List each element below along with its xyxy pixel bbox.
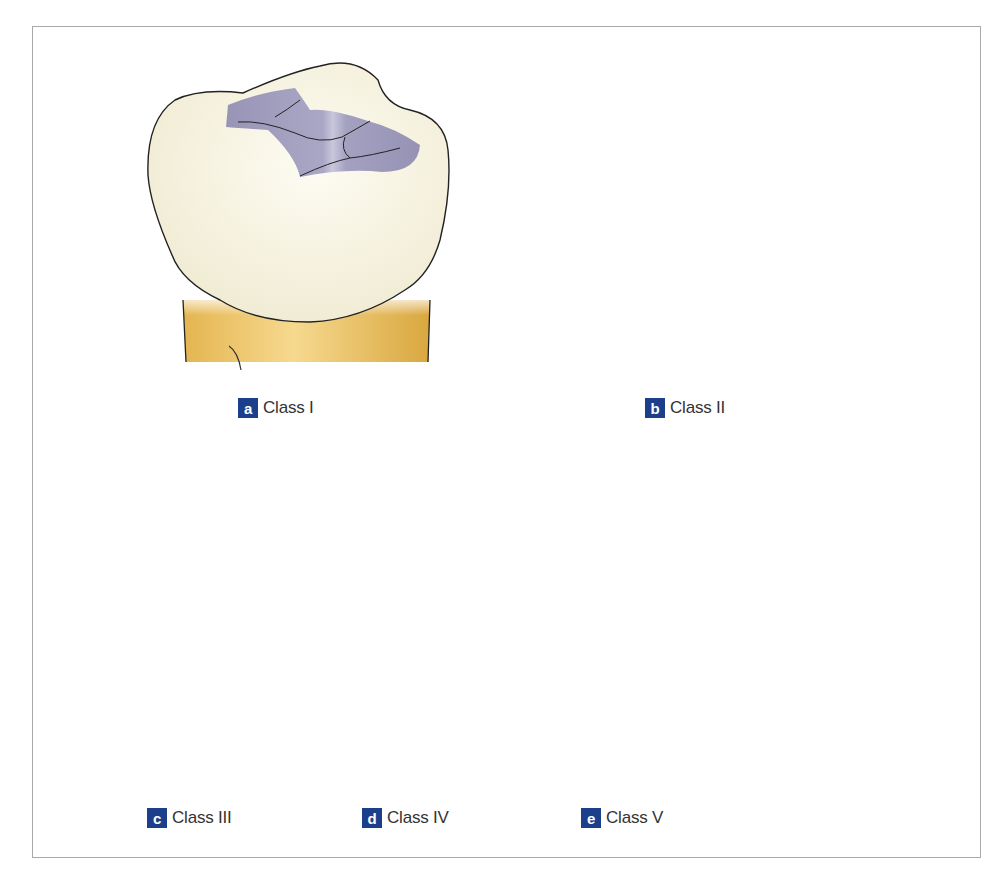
caption-class-v: e Class V <box>581 808 663 828</box>
panel-letter-badge: a <box>238 398 258 418</box>
panel-letter-badge: e <box>581 808 601 828</box>
panel-letter-badge: b <box>645 398 665 418</box>
caption-label: Class III <box>172 808 232 828</box>
caption-class-iii: c Class III <box>147 808 232 828</box>
caption-class-i: a Class I <box>238 398 314 418</box>
panel-letter-badge: d <box>362 808 382 828</box>
tooth-illustrations <box>0 0 1006 874</box>
caption-class-ii: b Class II <box>645 398 725 418</box>
caption-label: Class V <box>606 808 663 828</box>
tooth-molar-class-i <box>148 63 449 370</box>
caption-label: Class IV <box>387 808 449 828</box>
caption-label: Class I <box>263 398 314 418</box>
panel-letter-badge: c <box>147 808 167 828</box>
caption-class-iv: d Class IV <box>362 808 449 828</box>
caption-label: Class II <box>670 398 725 418</box>
